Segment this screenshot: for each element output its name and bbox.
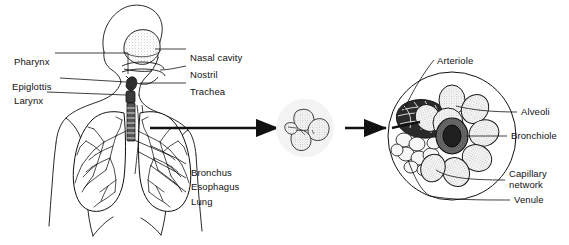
- label-trachea: Trachea: [190, 86, 225, 97]
- bronchiole-lumen: [436, 118, 468, 154]
- epiglottis-shape: [126, 77, 137, 91]
- label-nostril: Nostril: [190, 69, 218, 80]
- trachea-shape: [127, 103, 135, 141]
- leader-lines-left: [47, 53, 128, 95]
- label-capillary-network: Capillary network: [509, 168, 569, 190]
- nasal-cavity-shape: [124, 30, 161, 65]
- label-epiglottis: Epiglottis: [12, 81, 52, 92]
- leader-epiglottis: [60, 78, 126, 82]
- label-nasal-cavity: Nasal cavity: [190, 52, 242, 63]
- diagram-canvas: [0, 0, 569, 245]
- lung-left: [73, 112, 125, 212]
- label-larynx: Larynx: [14, 95, 43, 106]
- middle-alveolar-cluster: [276, 99, 334, 157]
- label-pharynx: Pharynx: [14, 56, 50, 67]
- label-esophagus: Esophagus: [191, 181, 239, 192]
- respiratory-system-figure: Pharynx Epiglottis Larynx Nasal cavity N…: [0, 0, 569, 245]
- lung-right: [139, 112, 191, 212]
- label-alveoli: Alveoli: [521, 106, 550, 117]
- label-lung: Lung: [191, 196, 213, 207]
- label-arteriole: Arteriole: [437, 55, 473, 66]
- label-venule: Venule: [514, 194, 544, 205]
- larynx-shape: [126, 91, 135, 103]
- label-bronchiole: Bronchiole: [511, 130, 557, 141]
- label-bronchus: Bronchus: [191, 167, 232, 178]
